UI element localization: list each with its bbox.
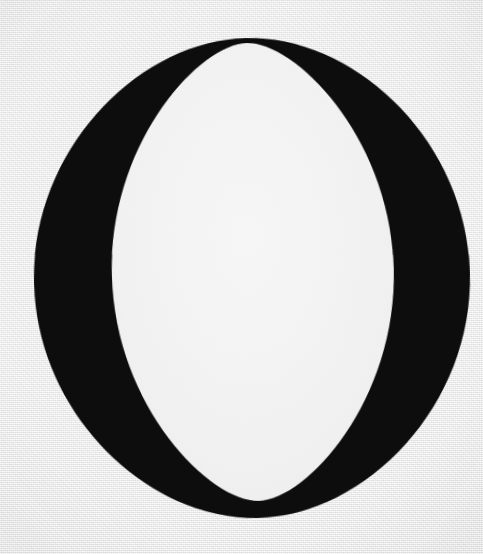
specimen-page xyxy=(0,0,483,554)
glyph-layer xyxy=(0,0,483,554)
letter-o-glyph xyxy=(0,0,483,554)
